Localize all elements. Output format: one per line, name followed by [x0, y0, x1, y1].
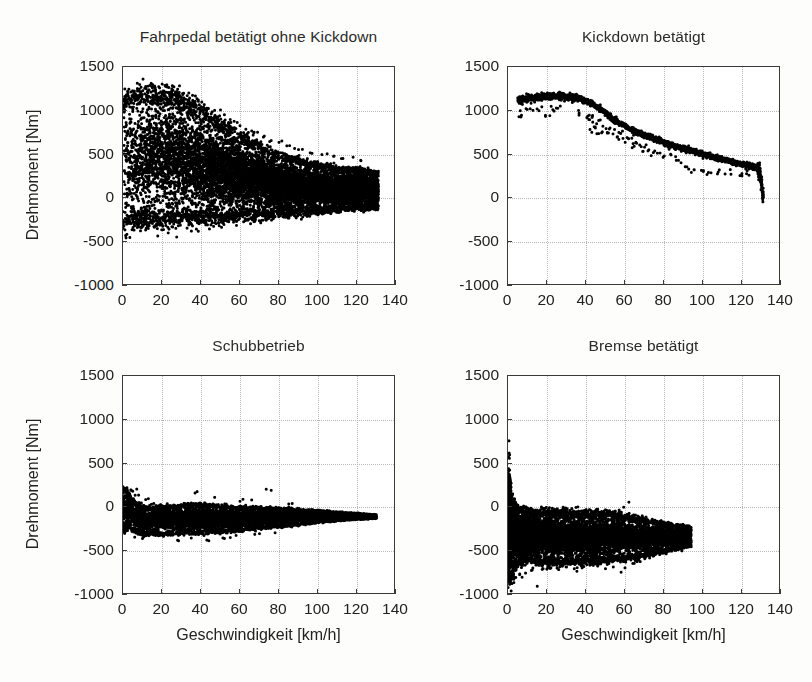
y-tick-label: 500 [54, 454, 114, 472]
x-tickmark [278, 589, 279, 594]
gridline-vertical [240, 376, 241, 593]
y-tickmark [507, 375, 512, 376]
y-tick-label: -500 [439, 541, 499, 559]
y-tick-label: 1000 [54, 410, 114, 428]
x-tickmark [122, 589, 123, 594]
y-tickmark [122, 375, 127, 376]
x-tick-label: 20 [152, 291, 169, 309]
gridline-horizontal [123, 111, 394, 112]
x-tick-label: 0 [503, 600, 512, 618]
x-tick-label: 60 [615, 600, 632, 618]
x-axis-label-bremse: Geschwindigkeit [km/h] [507, 626, 780, 644]
x-tickmark [278, 280, 279, 285]
gridline-horizontal [508, 507, 779, 508]
y-axis-label-fahrpedal: Drehmoment [Nm] [23, 65, 41, 284]
y-tickmark [122, 241, 127, 242]
subplot-kickdown: Kickdown betätigt-1000-50005001000150002… [0, 0, 812, 682]
gridline-horizontal [508, 198, 779, 199]
x-tickmark [780, 589, 781, 594]
y-tick-label: 0 [54, 188, 114, 206]
x-tickmark [702, 589, 703, 594]
x-tick-label: 20 [537, 600, 554, 618]
x-tick-label: 100 [304, 291, 330, 309]
x-tickmark [239, 280, 240, 285]
gridline-vertical [201, 67, 202, 284]
y-tick-label: -1000 [54, 276, 114, 294]
gridline-horizontal [508, 551, 779, 552]
y-tick-label: 1000 [54, 101, 114, 119]
subplot-fahrpedal: Fahrpedal betätigt ohne Kickdown-1000-50… [0, 0, 812, 682]
gridline-vertical [547, 67, 548, 284]
subplot-title-schubbetrieb: Schubbetrieb [122, 337, 395, 355]
gridline-vertical [279, 67, 280, 284]
y-tickmark [507, 110, 512, 111]
x-tickmark [122, 280, 123, 285]
gridline-horizontal [123, 242, 394, 243]
x-tickmark [317, 589, 318, 594]
x-tick-label: 0 [118, 291, 127, 309]
gridline-vertical [357, 376, 358, 593]
x-tick-label: 60 [230, 600, 247, 618]
gridline-vertical [742, 376, 743, 593]
y-tickmark [122, 550, 127, 551]
subplot-title-fahrpedal: Fahrpedal betätigt ohne Kickdown [122, 28, 395, 46]
gridline-vertical [547, 376, 548, 593]
y-tickmark [122, 419, 127, 420]
gridline-horizontal [508, 420, 779, 421]
y-tickmark [507, 66, 512, 67]
x-tickmark [395, 589, 396, 594]
x-tickmark [507, 280, 508, 285]
gridline-horizontal [123, 198, 394, 199]
gridline-horizontal [508, 464, 779, 465]
x-tick-label: 120 [343, 600, 369, 618]
gridline-vertical [162, 376, 163, 593]
x-tickmark [200, 280, 201, 285]
gridline-horizontal [123, 420, 394, 421]
y-tick-label: -500 [54, 232, 114, 250]
x-tick-label: 120 [728, 600, 754, 618]
x-tickmark [663, 589, 664, 594]
gridline-vertical [625, 376, 626, 593]
x-tickmark [356, 589, 357, 594]
gridline-vertical [625, 67, 626, 284]
x-tickmark [741, 280, 742, 285]
y-tick-label: 1500 [439, 366, 499, 384]
x-tick-label: 40 [191, 600, 208, 618]
gridline-vertical [703, 67, 704, 284]
x-tick-label: 80 [654, 291, 671, 309]
x-tick-label: 0 [503, 291, 512, 309]
x-tick-label: 140 [382, 291, 408, 309]
gridline-vertical [586, 67, 587, 284]
gridline-vertical [586, 376, 587, 593]
gridline-vertical [318, 67, 319, 284]
y-tickmark [507, 506, 512, 507]
x-tickmark [395, 280, 396, 285]
y-tickmark [507, 594, 512, 595]
y-tickmark [507, 197, 512, 198]
gridline-horizontal [123, 155, 394, 156]
gridline-horizontal [508, 155, 779, 156]
x-tickmark [161, 280, 162, 285]
scatter-points-kickdown [508, 67, 780, 285]
x-tickmark [317, 280, 318, 285]
subplot-title-kickdown: Kickdown betätigt [507, 28, 780, 46]
gridline-vertical [201, 376, 202, 593]
x-tick-label: 100 [689, 600, 715, 618]
x-tickmark [624, 280, 625, 285]
x-tick-label: 100 [304, 600, 330, 618]
y-tick-label: 500 [54, 145, 114, 163]
y-tick-label: -1000 [439, 585, 499, 603]
y-tickmark [507, 241, 512, 242]
y-axis-label-schubbetrieb: Drehmoment [Nm] [23, 374, 41, 593]
x-tick-label: 80 [654, 600, 671, 618]
x-tick-label: 0 [118, 600, 127, 618]
x-tick-label: 100 [689, 291, 715, 309]
y-tickmark [507, 463, 512, 464]
y-tick-label: -1000 [54, 585, 114, 603]
x-tick-label: 140 [767, 291, 793, 309]
x-tick-label: 60 [230, 291, 247, 309]
plot-area-fahrpedal [122, 66, 395, 285]
scatter-points-bremse [508, 376, 780, 594]
y-tick-label: -500 [439, 232, 499, 250]
x-tickmark [239, 589, 240, 594]
